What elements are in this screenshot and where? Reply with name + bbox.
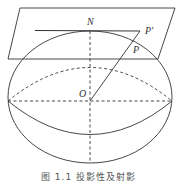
sphere-projection-diagram: N P' P O: [0, 0, 177, 170]
tangent-line: [35, 31, 140, 32]
label-n: N: [86, 16, 95, 27]
label-o: O: [79, 88, 86, 99]
label-p: P: [132, 44, 139, 55]
projection-ray: [90, 31, 140, 101]
figure-caption: 图 1.1 投影性及射影: [0, 170, 177, 182]
equator-front: [8, 101, 172, 135]
label-p-prime: P': [144, 25, 154, 36]
equator-back: [8, 68, 172, 102]
